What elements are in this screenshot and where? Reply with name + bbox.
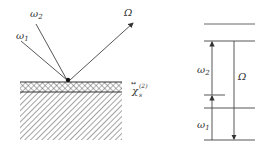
substrate <box>20 92 122 140</box>
diagram-canvas: ω1 ω2 Ω χ s (2) ↔ ω2 ω1 Ω <box>0 0 268 149</box>
level-label-Omega: Ω <box>237 71 246 82</box>
label-chi: χ s (2) ↔ <box>131 79 148 98</box>
label-omega2: ω2 <box>30 8 43 21</box>
beam-omega2 <box>36 24 67 80</box>
sfg-diagram: ω1 ω2 Ω χ s (2) ↔ ω2 ω1 Ω <box>0 0 268 149</box>
beam-omega1 <box>21 41 67 80</box>
svg-text:s: s <box>139 91 142 98</box>
level-label-omega1: ω1 <box>197 119 210 132</box>
beam-Omega <box>70 23 133 80</box>
svg-text:↔: ↔ <box>131 79 136 86</box>
label-omega1: ω1 <box>16 30 29 43</box>
interaction-point <box>66 78 70 82</box>
level-label-omega2: ω2 <box>197 64 210 77</box>
svg-text:χ: χ <box>131 85 139 96</box>
label-Omega: Ω <box>123 7 132 18</box>
interface-layer <box>20 82 122 92</box>
svg-text:(2): (2) <box>139 82 148 89</box>
